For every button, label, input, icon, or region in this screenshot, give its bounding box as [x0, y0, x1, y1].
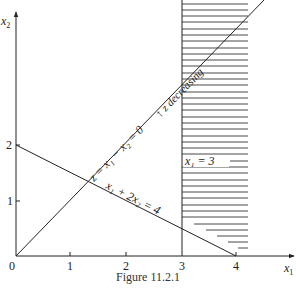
constraint-sum-label: x₁ + 2x₂ = 4 — [103, 178, 163, 218]
y-axis-label: x2 — [0, 14, 10, 30]
y-tick-2: 2 — [6, 138, 12, 152]
lp-figure: 0 1 2 3 4 1 2 x1 x2 z = x₁ − x₂ = 0 ↑ z … — [0, 0, 296, 290]
constraint-vertical-label: x₁ = 3 — [184, 154, 215, 168]
figure-caption: Figure 11.2.1 — [0, 270, 296, 285]
objective-line-label: z = x₁ − x₂ = 0 — [85, 123, 146, 185]
y-tick-1: 1 — [7, 194, 13, 208]
hatched-region — [182, 4, 248, 248]
